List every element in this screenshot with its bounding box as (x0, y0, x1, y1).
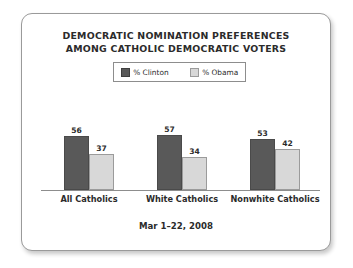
chart-screenshot: DEMOCRATIC NOMINATION PREFERENCES AMONG … (0, 0, 353, 268)
bar-value-clinton-all-catholics: 56 (71, 126, 82, 135)
chart-title-line-1: DEMOCRATIC NOMINATION PREFERENCES (22, 30, 330, 43)
chart-legend: % Clinton % Obama (113, 62, 246, 82)
category-label-all-catholics: All Catholics (60, 194, 117, 204)
category-label-nonwhite-catholics: Nonwhite Catholics (230, 194, 319, 204)
bar-value-obama-nonwhite-catholics: 42 (282, 139, 293, 148)
bar-value-clinton-white-catholics: 57 (164, 125, 175, 134)
bar-group-all-catholics: 56 37 All Catholics (43, 123, 135, 190)
bar-obama-nonwhite-catholics[interactable]: 42 (275, 149, 300, 190)
category-label-white-catholics: White Catholics (146, 194, 218, 204)
bar-pair: 56 37 (64, 123, 114, 190)
dark-swatch-icon (121, 68, 130, 77)
date-range-caption: Mar 1–22, 2008 (22, 221, 330, 231)
bar-value-clinton-nonwhite-catholics: 53 (257, 129, 268, 138)
legend-label-clinton: % Clinton (133, 68, 168, 77)
bar-clinton-all-catholics[interactable]: 56 (64, 136, 89, 190)
light-swatch-icon (190, 68, 199, 77)
bar-group-nonwhite-catholics: 53 42 Nonwhite Catholics (229, 123, 321, 190)
legend-item-clinton[interactable]: % Clinton (121, 68, 169, 77)
chart-title-line-2: AMONG CATHOLIC DEMOCRATIC VOTERS (22, 43, 330, 56)
bar-clinton-nonwhite-catholics[interactable]: 53 (250, 139, 275, 190)
chart-title: DEMOCRATIC NOMINATION PREFERENCES AMONG … (22, 30, 330, 55)
x-axis-line (41, 190, 320, 191)
chart-card: DEMOCRATIC NOMINATION PREFERENCES AMONG … (21, 13, 331, 251)
legend-item-obama[interactable]: % Obama (190, 68, 239, 77)
bar-value-obama-all-catholics: 37 (96, 144, 107, 153)
legend-label-obama: % Obama (202, 68, 238, 77)
bar-pair: 53 42 (250, 123, 300, 190)
bar-value-obama-white-catholics: 34 (189, 147, 200, 156)
bar-pair: 57 34 (157, 123, 207, 190)
bar-group-white-catholics: 57 34 White Catholics (136, 123, 228, 190)
bar-clinton-white-catholics[interactable]: 57 (157, 135, 182, 190)
bar-obama-all-catholics[interactable]: 37 (89, 154, 114, 190)
bar-obama-white-catholics[interactable]: 34 (182, 157, 207, 190)
plot-area: 56 37 All Catholics 57 34 Whi (41, 124, 320, 191)
